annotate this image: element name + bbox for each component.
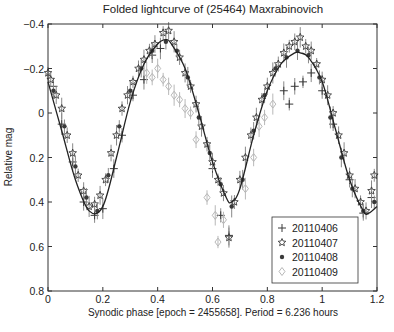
- y-tick-label: −0.4: [23, 18, 44, 30]
- asterisk-marker: [84, 195, 88, 199]
- asterisk-marker: [229, 204, 233, 208]
- asterisk-marker: [62, 124, 66, 128]
- x-tick-label: 1.2: [370, 293, 385, 305]
- y-tick-label: 0.2: [29, 152, 44, 164]
- asterisk-marker: [280, 255, 284, 259]
- fit-curve: [48, 40, 377, 215]
- asterisk-marker: [128, 89, 132, 93]
- x-tick-label: 0.4: [150, 293, 165, 305]
- y-tick-label: 0: [38, 107, 44, 119]
- y-tick-label: 0.8: [29, 285, 44, 297]
- x-tick-label: 0.6: [205, 293, 220, 305]
- asterisk-marker: [73, 164, 77, 168]
- plus-marker: [291, 82, 299, 90]
- plus-marker: [280, 87, 288, 95]
- asterisk-marker: [51, 89, 55, 93]
- x-tick-label: 0.2: [96, 293, 111, 305]
- plus-marker: [307, 69, 315, 77]
- y-tick-label: 0.6: [29, 241, 44, 253]
- chart-title: Folded lightcurve of (25464) Maxrabinovi…: [103, 3, 324, 15]
- plot-area: [44, 22, 378, 248]
- asterisk-marker: [106, 173, 110, 177]
- asterisk-marker: [117, 124, 121, 128]
- legend-label: 20110408: [292, 251, 338, 263]
- y-tick-label: −0.2: [23, 63, 44, 75]
- x-axis-label: Synodic phase [epoch = 2455658]. Period …: [88, 307, 338, 318]
- plus-marker: [285, 100, 293, 108]
- plus-marker: [156, 44, 164, 52]
- x-tick-label: 1: [319, 293, 325, 305]
- x-tick-label: 0.8: [260, 293, 275, 305]
- x-tick-label: 0: [45, 293, 51, 305]
- legend-label: 20110407: [292, 237, 338, 249]
- legend: 20110406201104072011040820110409: [272, 217, 358, 283]
- y-axis-label: Relative mag: [3, 128, 14, 186]
- lightcurve-chart: Folded lightcurve of (25464) Maxrabinovi…: [0, 0, 394, 332]
- plus-marker: [299, 78, 307, 86]
- legend-label: 20110409: [292, 266, 338, 278]
- y-tick-label: 0.4: [29, 196, 44, 208]
- legend-label: 20110406: [292, 222, 338, 234]
